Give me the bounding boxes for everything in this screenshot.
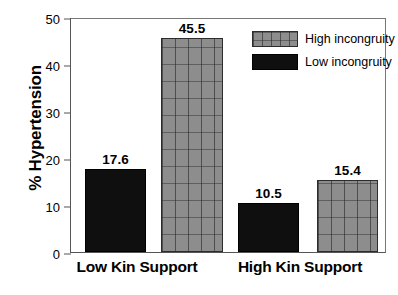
y-tick-mark-10: [64, 206, 71, 208]
bar-low-kin-high-incongruity[interactable]: 45.5: [161, 38, 223, 252]
y-tick-40: 40: [46, 59, 71, 74]
legend-label-high-incongruity: High incongruity: [305, 32, 395, 46]
bar-value-label: 45.5: [179, 21, 205, 36]
legend-label-low-incongruity: Low incongruity: [305, 55, 392, 69]
y-tick-20: 20: [46, 153, 71, 168]
y-tick-label-40: 40: [46, 59, 64, 74]
bar-value-label: 15.4: [334, 163, 360, 178]
y-tick-50: 50: [46, 12, 71, 27]
y-tick-mark-40: [64, 65, 71, 67]
y-tick-label-10: 10: [46, 200, 64, 215]
y-tick-label-50: 50: [46, 12, 64, 27]
y-tick-mark-0: [64, 253, 71, 255]
y-tick-10: 10: [46, 200, 71, 215]
y-tick-mark-50: [64, 18, 71, 20]
gray-grid-swatch-icon: [252, 31, 298, 47]
y-tick-mark-30: [64, 112, 71, 114]
black-solid-swatch-icon: [252, 54, 298, 70]
legend-item-low-incongruity[interactable]: Low incongruity: [252, 54, 395, 70]
bar-high-kin-low-incongruity[interactable]: 10.5: [238, 203, 299, 252]
bar-chart: % Hypertension 50 40 30 20 10 0 17.6: [0, 0, 398, 295]
y-axis-title: % Hypertension: [26, 18, 46, 238]
bar-value-label: 10.5: [255, 186, 281, 201]
y-tick-label-30: 30: [46, 106, 64, 121]
y-tick-30: 30: [46, 106, 71, 121]
y-tick-mark-20: [64, 159, 71, 161]
legend: High incongruity Low incongruity: [252, 31, 395, 77]
x-group-label-low-kin-support: Low Kin Support: [62, 258, 212, 276]
bar-low-kin-low-incongruity[interactable]: 17.6: [85, 169, 146, 252]
legend-item-high-incongruity[interactable]: High incongruity: [252, 31, 395, 47]
y-tick-label-20: 20: [46, 153, 64, 168]
bar-high-kin-high-incongruity[interactable]: 15.4: [317, 180, 378, 252]
x-group-label-high-kin-support: High Kin Support: [220, 258, 380, 276]
bar-value-label: 17.6: [102, 152, 128, 167]
